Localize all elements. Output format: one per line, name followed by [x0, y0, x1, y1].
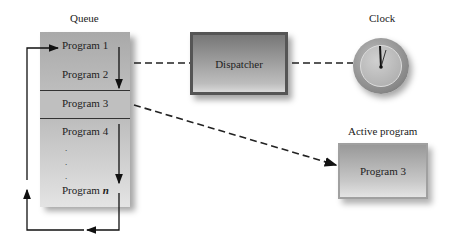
dashed-arrow-program3-active: [134, 105, 336, 165]
connectors: [0, 0, 463, 239]
clock-hour-hand: [380, 46, 381, 67]
clock-minute-hand: [381, 50, 386, 67]
loop-arrow-bottom: [87, 193, 119, 230]
loop-arrow-left-lower: [27, 190, 84, 230]
loop-arrow-left-upper: [27, 48, 58, 180]
